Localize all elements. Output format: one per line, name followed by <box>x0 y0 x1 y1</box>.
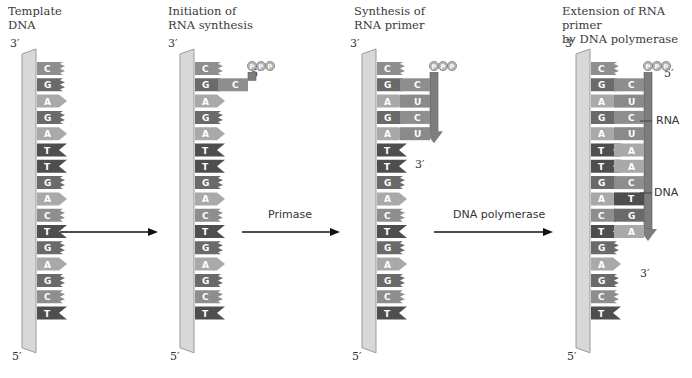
base-letter: A <box>628 227 635 237</box>
base-letter: U <box>414 97 421 107</box>
new-base: C <box>400 111 430 124</box>
base-letter: A <box>598 194 605 204</box>
base-letter: T <box>628 194 635 204</box>
dna-backbone <box>576 49 590 353</box>
base-letter: U <box>414 129 421 139</box>
template-base: C <box>195 209 223 222</box>
base-letter: T <box>44 309 51 319</box>
template-base: G <box>377 176 405 189</box>
base-letter: G <box>598 113 605 123</box>
template-base: T <box>195 225 225 238</box>
new-base: C <box>218 78 248 91</box>
template-base: G <box>377 241 405 254</box>
template-base: C <box>377 290 405 303</box>
template-base: T <box>195 160 225 173</box>
new-base: U <box>614 127 644 140</box>
base-letter: T <box>44 146 51 156</box>
svg-text:P: P <box>432 63 437 71</box>
base-letter: G <box>384 80 391 90</box>
step-arrow-primase <box>242 228 340 236</box>
base-letter: A <box>384 194 391 204</box>
base-letter: C <box>44 64 51 74</box>
template-base: G <box>37 274 65 287</box>
template-base: G <box>37 78 65 91</box>
new-base: C <box>614 176 644 189</box>
base-letter: T <box>44 162 51 172</box>
svg-text:P: P <box>268 63 273 71</box>
template-base: C <box>377 62 405 75</box>
template-base: T <box>377 225 407 238</box>
base-letter: A <box>44 97 51 107</box>
base-letter: C <box>414 113 421 123</box>
base-letter: T <box>598 162 605 172</box>
base-letter: G <box>202 276 209 286</box>
base-letter: G <box>384 276 391 286</box>
base-letter: C <box>202 211 209 221</box>
base-letter: A <box>384 260 391 270</box>
new-base: A <box>614 225 644 238</box>
base-letter: A <box>384 129 391 139</box>
template-base: A <box>195 95 225 108</box>
svg-text:P: P <box>259 63 264 71</box>
base-letter: T <box>202 146 209 156</box>
base-letter: C <box>598 64 605 74</box>
new-base: A <box>614 144 644 157</box>
base-letter: G <box>202 80 209 90</box>
arrow-head-icon <box>330 228 340 236</box>
base-letter: C <box>232 80 239 90</box>
base-letter: T <box>384 227 391 237</box>
svg-text:P: P <box>441 63 446 71</box>
arrow-head-icon <box>148 228 158 236</box>
new-base: U <box>614 95 644 108</box>
template-base: C <box>37 290 65 303</box>
template-strand: CGAGATTGACTGAGCT <box>22 49 67 353</box>
base-letter: A <box>628 146 635 156</box>
template-base: T <box>37 144 67 157</box>
step-arrow-dna-polymerase <box>434 228 553 236</box>
base-letter: U <box>628 97 635 107</box>
template-base: G <box>591 274 619 287</box>
base-letter: T <box>202 162 209 172</box>
template-base: A <box>195 127 225 140</box>
base-letter: C <box>202 292 209 302</box>
template-base: C <box>591 290 619 303</box>
template-base: G <box>37 111 65 124</box>
base-letter: A <box>202 194 209 204</box>
base-letter: C <box>44 292 51 302</box>
new-strand-backbone <box>248 72 256 80</box>
template-base: A <box>195 258 225 271</box>
base-letter: C <box>598 292 605 302</box>
template-base: G <box>195 176 223 189</box>
base-letter: C <box>384 211 391 221</box>
base-letter: C <box>628 113 635 123</box>
template-base: G <box>591 241 619 254</box>
template-base: G <box>377 274 405 287</box>
base-letter: G <box>44 80 51 90</box>
base-letter: T <box>202 227 209 237</box>
base-letter: A <box>44 260 51 270</box>
base-letter: A <box>202 129 209 139</box>
template-base: A <box>37 192 67 205</box>
base-letter: A <box>628 162 635 172</box>
base-letter: T <box>44 227 51 237</box>
template-base: T <box>195 144 225 157</box>
base-letter: G <box>598 80 605 90</box>
arrow-head-icon <box>543 228 553 236</box>
template-base: C <box>37 209 65 222</box>
new-base: C <box>614 78 644 91</box>
base-letter: A <box>598 260 605 270</box>
template-base: T <box>37 160 67 173</box>
base-letter: T <box>384 309 391 319</box>
base-letter: G <box>202 178 209 188</box>
new-strand: CUCUPPP <box>400 61 457 143</box>
svg-text:P: P <box>646 63 651 71</box>
new-base: G <box>614 209 644 222</box>
new-strand: CUCUAACTGAPPP <box>614 61 671 241</box>
base-letter: A <box>44 129 51 139</box>
svg-text:P: P <box>250 63 255 71</box>
base-letter: A <box>202 260 209 270</box>
base-letter: U <box>628 129 635 139</box>
new-strand-backbone <box>430 72 438 131</box>
new-strand: CPPP <box>218 61 275 91</box>
base-letter: T <box>598 146 605 156</box>
